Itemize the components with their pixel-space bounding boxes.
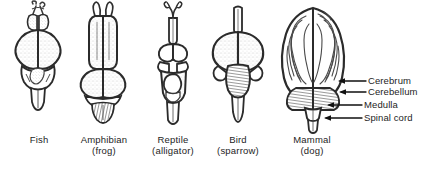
specimen-name-reptile: Reptile	[140, 134, 206, 145]
specimen-label-mammal: Mammal (dog)	[280, 134, 344, 156]
annotation-label-medulla: Medulla	[364, 100, 398, 110]
brain-drawing-bird	[213, 7, 263, 123]
specimen-name-bird: Bird	[207, 134, 269, 145]
annotation-label-cerebrum: Cerebrum	[368, 76, 411, 86]
specimen-name-amphibian: Amphibian	[71, 134, 137, 145]
specimen-name-fish: Fish	[10, 134, 68, 145]
annotation-label-spinal-cord: Spinal cord	[364, 113, 413, 123]
brain-drawing-reptile	[158, 2, 188, 124]
specimen-label-amphibian: Amphibian (frog)	[71, 134, 137, 156]
specimen-label-bird: Bird (sparrow)	[207, 134, 269, 156]
specimen-common-mammal: (dog)	[280, 145, 344, 156]
specimen-label-reptile: Reptile (alligator)	[140, 134, 206, 156]
specimen-common-amphibian: (frog)	[71, 145, 137, 156]
specimen-common-reptile: (alligator)	[140, 145, 206, 156]
leader-line-medulla	[327, 102, 362, 108]
brain-drawing-mammal	[282, 8, 344, 133]
leader-line-cerebellum	[339, 89, 366, 95]
specimen-name-mammal: Mammal	[280, 134, 344, 145]
specimen-label-fish: Fish	[10, 134, 68, 145]
brain-drawing-amphibian	[81, 2, 126, 123]
leader-line-spinal-cord	[324, 115, 362, 121]
specimen-common-bird: (sparrow)	[207, 145, 269, 156]
brain-drawing-fish	[15, 1, 60, 110]
annotation-label-cerebellum: Cerebellum	[368, 87, 418, 97]
